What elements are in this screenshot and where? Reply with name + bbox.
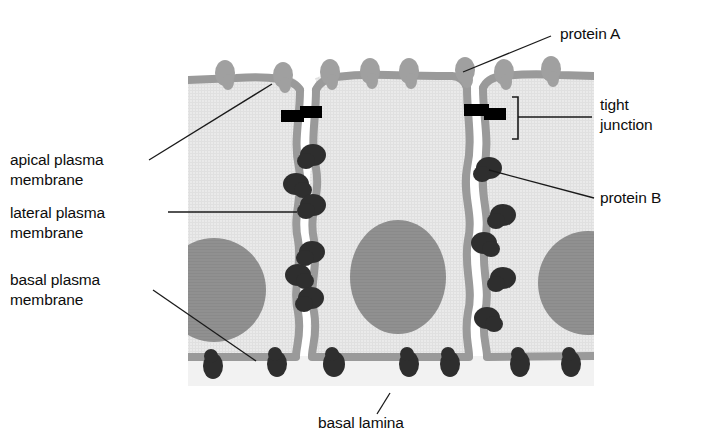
protein-a-blob [461,72,473,88]
protein-b-blob [482,241,500,257]
nucleus-right [538,231,638,335]
protein-b-blob [296,273,314,289]
protein-b-blob [204,349,218,363]
protein-b-blob [487,213,505,229]
label-tight-junction: tight junction [600,95,653,135]
protein-a-blob [405,73,417,89]
protein-b-blob [297,203,315,219]
protein-b-blob [325,347,339,361]
protein-b-blob [297,153,315,169]
protein-a-blob [279,77,291,93]
protein-b-blob [441,347,455,361]
protein-a-blob [326,74,338,90]
lateral-plasma-membrane-left-b [312,90,317,356]
label-basal-plasma-membrane: basal plasma membrane [10,270,155,310]
protein-b-blob [400,347,414,361]
label-lateral-plasma-membrane: lateral plasma membrane [10,203,160,243]
protein-a-blob [366,73,378,89]
protein-b-blob [268,347,282,361]
protein-a-blob [222,74,234,90]
protein-b-blob [511,347,525,361]
protein-b-blob [562,347,576,361]
protein-a-blob [500,74,512,90]
leader-basal-lamina [377,393,390,414]
label-protein-b: protein B [600,188,661,208]
lateral-plasma-membrane-left-a [296,90,300,356]
nucleus-left [162,238,266,342]
protein-a-blob [547,71,559,87]
label-basal-lamina: basal lamina [318,413,404,433]
protein-b-blob [487,276,505,292]
nucleus-center [350,220,446,334]
epithelial-cell-diagram: apical plasma membrane lateral plasma me… [0,0,703,444]
protein-b-blob [295,296,313,312]
lateral-plasma-membrane-right-a [466,88,470,356]
label-apical-plasma-membrane: apical plasma membrane [10,150,150,190]
protein-b-blob [485,316,503,332]
protein-b-blob [473,166,491,182]
label-protein-a: protein A [560,24,620,44]
protein-b-blob [296,250,314,266]
